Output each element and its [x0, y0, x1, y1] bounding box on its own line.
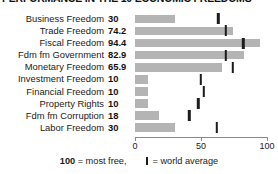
score-bar [135, 51, 244, 60]
world-average-tick [197, 98, 199, 109]
row-value: 18 [108, 110, 132, 122]
row-value: 82.9 [108, 49, 132, 61]
axis-tick-mark [267, 137, 268, 141]
legend-most-free-value: 100 [60, 156, 75, 166]
chart-row: Investment Freedom10 [0, 73, 278, 85]
row-value: 30 [108, 13, 132, 25]
score-bar [135, 39, 260, 48]
row-label-financial-freedom: Financial Freedom [0, 86, 104, 98]
row-value: 10 [108, 73, 132, 85]
row-label-business-freedom: Business Freedom [0, 13, 104, 25]
world-average-tick-icon [146, 157, 148, 166]
score-bar [135, 111, 159, 120]
legend-most-free-text: = most free, [78, 156, 127, 166]
row-value: 10 [108, 86, 132, 98]
bar-track [135, 98, 267, 110]
row-value: 65.9 [108, 61, 132, 73]
score-bar [135, 123, 175, 132]
row-label-fiscal-freedom: Fiscal Freedom [0, 37, 104, 49]
score-bar [135, 27, 233, 36]
world-average-tick [225, 50, 227, 61]
bar-track [135, 73, 267, 85]
chart-legend: 100 = most free, = world average [0, 155, 278, 167]
world-average-tick [242, 38, 244, 49]
score-bar [135, 87, 148, 96]
world-average-tick [188, 110, 190, 121]
bar-track [135, 37, 267, 49]
chart-row: Financial Freedom10 [0, 86, 278, 98]
row-label-fdm-fm-corruption: Fdm fm Corruption [0, 110, 104, 122]
row-label-property-rights: Property Rights [0, 98, 104, 110]
legend-world-average-text: = world average [153, 156, 219, 166]
chart-row: Fiscal Freedom94.4 [0, 37, 278, 49]
bar-track [135, 110, 267, 122]
row-label-labor-freedom: Labor Freedom [0, 122, 104, 134]
axis-tick-mark [201, 137, 202, 141]
world-average-tick [202, 86, 204, 97]
row-value: 10 [108, 98, 132, 110]
axis-tick-mark [135, 137, 136, 141]
bar-track [135, 25, 267, 37]
axis-tick-label: 50 [196, 141, 206, 151]
chart-row: Monetary Freedom65.9 [0, 61, 278, 73]
row-label-monetary-freedom: Monetary Freedom [0, 61, 104, 73]
row-value: 30 [108, 122, 132, 134]
bar-track [135, 122, 267, 134]
score-bar [135, 15, 175, 24]
row-label-investment-freedom: Investment Freedom [0, 73, 104, 85]
world-average-tick [231, 62, 233, 73]
world-average-tick [217, 13, 219, 24]
world-average-tick [225, 25, 227, 36]
score-bar [135, 75, 148, 84]
chart-row: Business Freedom30 [0, 13, 278, 25]
row-value: 94.4 [108, 37, 132, 49]
bar-track [135, 13, 267, 25]
row-label-fdm-fm-government: Fdm fm Government [0, 49, 104, 61]
axis-tick-label: 100 [259, 141, 274, 151]
row-label-trade-freedom: Trade Freedom [0, 25, 104, 37]
bar-track [135, 49, 267, 61]
chart-row: Labor Freedom30 [0, 122, 278, 134]
chart-title: PERFORMANCE IN THE 10 ECONOMIC FREEDOMS [2, 0, 276, 3]
world-average-tick [216, 122, 218, 133]
score-bar [135, 99, 148, 108]
score-bar [135, 63, 222, 72]
x-axis: 050100 [135, 137, 267, 143]
chart-row: Trade Freedom74.2 [0, 25, 278, 37]
chart-plot-area: Business Freedom30Trade Freedom74.2Fisca… [0, 13, 278, 137]
chart-row: Fdm fm Corruption18 [0, 110, 278, 122]
world-average-tick [200, 74, 202, 85]
row-value: 74.2 [108, 25, 132, 37]
bar-track [135, 86, 267, 98]
axis-tick-label: 0 [132, 141, 137, 151]
chart-row: Property Rights10 [0, 98, 278, 110]
chart-row: Fdm fm Government82.9 [0, 49, 278, 61]
bar-track [135, 61, 267, 73]
